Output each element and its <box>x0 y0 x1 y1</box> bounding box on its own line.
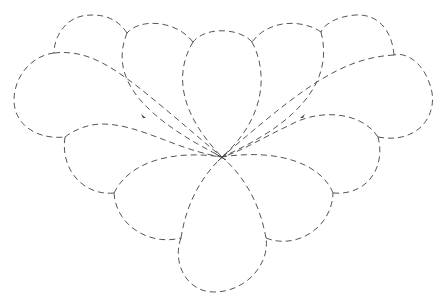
petal-right-center <box>252 23 321 42</box>
arrow-tip-right-icon <box>300 114 305 118</box>
petal-fan-diagram <box>0 0 442 297</box>
inner-line-right-outer-top <box>222 55 394 157</box>
center-marker <box>141 114 305 161</box>
inner-line-left-outer-top <box>54 52 222 157</box>
outer-contour <box>14 15 433 292</box>
petal-right-outer <box>378 54 433 138</box>
drawing-canvas: Dashed petal fan outline <box>0 0 442 297</box>
petal-right-top <box>321 15 394 55</box>
petal-left-middle <box>64 137 114 193</box>
inner-line-left-lower <box>114 155 222 193</box>
petal-center-top <box>193 31 252 42</box>
inner-line-left-top <box>122 33 222 157</box>
inner-line-bottom-left <box>181 157 222 238</box>
petal-right-lower <box>266 193 333 241</box>
arrow-tip-left-icon <box>141 114 146 118</box>
petal-right-middle <box>333 137 380 193</box>
inner-line-right-center <box>222 42 261 157</box>
inner-line-right-middle <box>222 115 378 157</box>
inner-line-left-center <box>183 42 222 157</box>
petal-bottom <box>178 238 266 292</box>
petal-left-center <box>127 23 193 42</box>
petal-left-outer <box>14 53 65 137</box>
inner-line-left-middle <box>65 124 222 157</box>
inner-line-bottom-right <box>222 157 266 238</box>
petal-left-lower <box>114 193 181 240</box>
petal-left-top <box>54 15 127 53</box>
inner-lines <box>54 32 394 238</box>
inner-line-right-top <box>222 32 324 157</box>
